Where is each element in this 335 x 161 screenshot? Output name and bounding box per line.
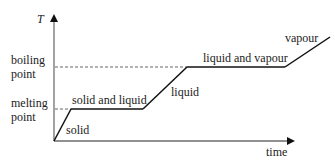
segment-label-liquid-and-vapour: liquid and vapour — [203, 51, 288, 65]
segment-label-liquid: liquid — [171, 85, 199, 99]
segment-label-vapour: vapour — [285, 31, 318, 45]
heating-curve-diagram: T time boiling point melting point solid… — [0, 0, 335, 161]
x-axis-label: time — [266, 145, 287, 159]
melting-point-label-1: melting — [11, 96, 48, 110]
y-axis-label: T — [37, 12, 45, 26]
melting-point-label-2: point — [11, 110, 36, 124]
segment-label-solid: solid — [66, 123, 89, 137]
segment-label-solid-and-liquid: solid and liquid — [72, 93, 147, 107]
boiling-point-label-2: point — [11, 67, 36, 81]
boiling-point-label-1: boiling — [11, 53, 45, 67]
